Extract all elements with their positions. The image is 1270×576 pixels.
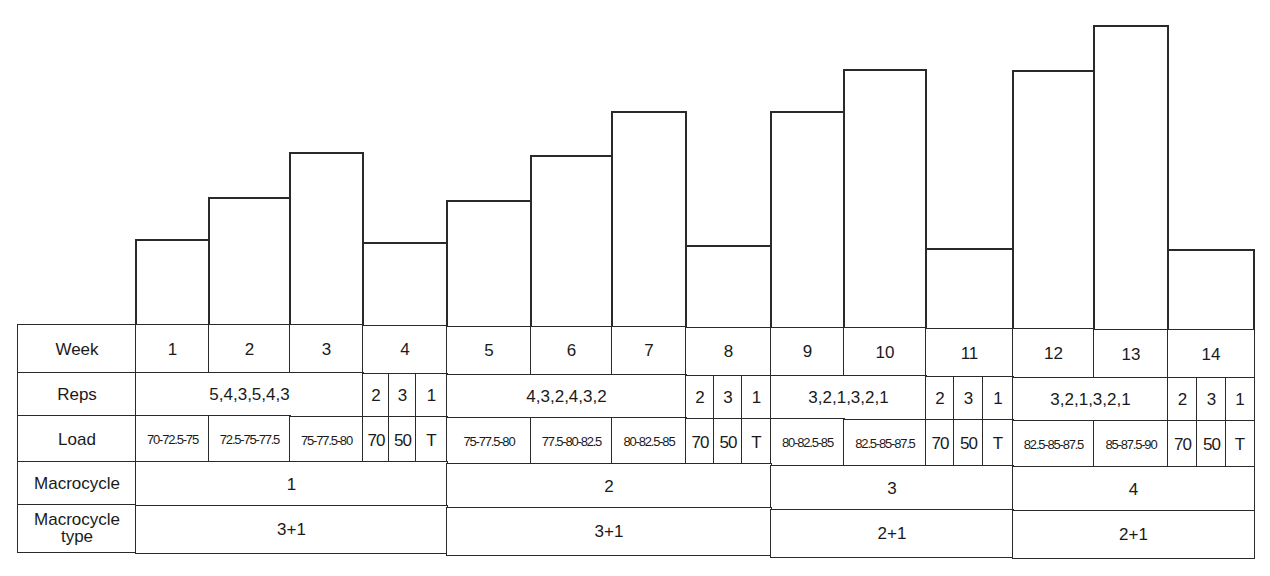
reps-cell: 1 [982, 376, 1014, 421]
load-cell: 70 [362, 416, 390, 464]
load-cell: T [982, 419, 1014, 467]
macrocycle-type-cell: 2+1 [1012, 510, 1255, 559]
bar-week-10 [843, 69, 927, 327]
reps-cell: 2 [1167, 377, 1198, 422]
row-label-macrocycle: Macrocycle [17, 461, 137, 506]
load-cell: 85-87.5-90 [1093, 420, 1169, 468]
bar-week-5 [446, 200, 532, 326]
periodization-chart: Week Reps Load Macrocycle Macrocycletype… [0, 0, 1270, 576]
bar-week-9 [770, 111, 845, 327]
reps-cell: 1 [741, 375, 772, 420]
week-cell: 5 [446, 326, 532, 375]
reps-cell: 1 [415, 373, 448, 418]
load-cell: T [741, 418, 772, 466]
load-cell: 70-72.5-75 [135, 415, 210, 463]
bar-week-12 [1012, 70, 1095, 328]
reps-cell: 3 [388, 373, 417, 418]
week-cell: 6 [530, 326, 613, 375]
row-label-week: Week [17, 324, 137, 374]
bar-week-6 [530, 155, 613, 326]
load-cell: 50 [953, 419, 984, 467]
reps-cell: 2 [925, 376, 955, 421]
load-cell: 80-82.5-85 [770, 418, 845, 466]
bar-week-11 [925, 248, 1014, 328]
reps-cell: 2 [362, 373, 390, 418]
load-cell: 70 [685, 418, 715, 466]
reps-cell: 5,4,3,5,4,3 [135, 372, 364, 417]
row-label-load: Load [17, 415, 137, 463]
week-cell: 13 [1093, 329, 1169, 379]
load-cell: T [1225, 420, 1255, 468]
week-cell: 8 [685, 327, 772, 376]
load-cell: 82.5-85-87.5 [843, 419, 927, 467]
load-cell: 82.5-85-87.5 [1012, 420, 1095, 468]
macrocycle-cell: 4 [1012, 466, 1255, 512]
week-cell: 11 [925, 328, 1014, 378]
reps-cell: 3 [953, 376, 984, 421]
week-cell: 1 [135, 324, 210, 374]
bar-week-14 [1167, 249, 1255, 329]
week-cell: 4 [362, 325, 448, 374]
reps-cell: 2 [685, 375, 715, 420]
load-cell: 50 [1196, 420, 1227, 468]
reps-cell: 1 [1225, 377, 1255, 422]
reps-cell: 3,2,1,3,2,1 [770, 375, 927, 420]
macrocycle-type-cell: 2+1 [770, 509, 1014, 558]
week-cell: 3 [289, 324, 364, 374]
bar-week-1 [135, 239, 210, 325]
load-cell: 77.5-80-82.5 [530, 417, 613, 465]
load-cell: 75-77.5-80 [289, 416, 364, 464]
bar-week-8 [685, 245, 772, 327]
reps-cell: 3 [713, 375, 743, 420]
bar-week-7 [611, 111, 687, 326]
load-cell: 50 [713, 418, 743, 466]
load-cell: 72.5-75-77.5 [208, 415, 291, 463]
week-cell: 2 [208, 324, 291, 374]
bar-week-4 [362, 242, 448, 325]
bar-week-13 [1093, 25, 1169, 329]
week-cell: 10 [843, 327, 927, 377]
load-cell: 70 [925, 419, 955, 467]
macrocycle-type-cell: 3+1 [135, 505, 448, 554]
load-cell: 50 [388, 416, 417, 464]
week-cell: 12 [1012, 328, 1095, 378]
macrocycle-cell: 2 [446, 463, 772, 509]
row-label-reps: Reps [17, 372, 137, 417]
week-cell: 7 [611, 326, 687, 375]
reps-cell: 3 [1196, 377, 1227, 422]
macrocycle-cell: 1 [135, 461, 448, 507]
macrocycle-type-cell: 3+1 [446, 507, 772, 556]
week-cell: 14 [1167, 329, 1255, 379]
bar-week-3 [289, 152, 364, 325]
row-label-macrocycle-type: Macrocycletype [17, 504, 137, 553]
load-cell: T [415, 416, 448, 464]
load-cell: 80-82.5-85 [611, 417, 687, 465]
load-cell: 70 [1167, 420, 1198, 468]
reps-cell: 4,3,2,4,3,2 [446, 374, 687, 419]
reps-cell: 3,2,1,3,2,1 [1012, 377, 1169, 422]
bar-week-2 [208, 197, 291, 325]
macrocycle-cell: 3 [770, 465, 1014, 511]
week-cell: 9 [770, 327, 845, 376]
load-cell: 75-77.5-80 [446, 417, 532, 465]
